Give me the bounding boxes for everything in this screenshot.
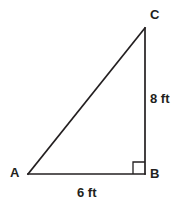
triangle-side-ac <box>28 28 145 174</box>
right-angle-marker-icon <box>133 162 145 174</box>
right-triangle-figure: A B C 8 ft 6 ft <box>0 0 181 209</box>
vertex-label-b: B <box>150 167 159 180</box>
vertex-label-a: A <box>10 166 19 179</box>
vertex-label-c: C <box>150 8 159 21</box>
side-measure-ab: 6 ft <box>77 186 97 199</box>
side-measure-bc: 8 ft <box>150 92 170 105</box>
